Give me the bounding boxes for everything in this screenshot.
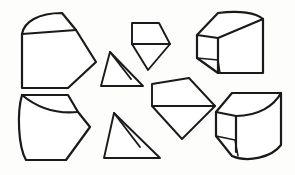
geometric-figure-svg <box>0 0 295 175</box>
shape-8-outline <box>216 93 281 159</box>
shape-cylinder-cube-bottom-right <box>216 93 281 159</box>
drawing-canvas <box>0 0 295 175</box>
